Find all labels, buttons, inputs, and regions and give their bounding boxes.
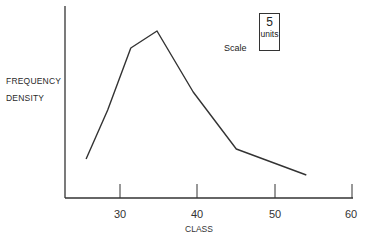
frequency-polygon-line	[86, 31, 306, 175]
x-tick-label-30: 30	[114, 208, 126, 220]
x-tick-label-60: 60	[345, 208, 357, 220]
y-axis-label-line2: DENSITY	[6, 90, 61, 107]
scale-unit: units	[260, 29, 279, 40]
y-axis-label: FREQUENCY DENSITY	[6, 73, 61, 107]
chart-canvas	[0, 0, 366, 240]
scale-value: 5	[260, 16, 279, 29]
x-tick-label-50: 50	[269, 208, 281, 220]
scale-label: Scale	[224, 43, 247, 53]
scale-box: 5 units	[259, 13, 280, 51]
x-tick-label-40: 40	[191, 208, 203, 220]
x-axis-label: CLASS	[185, 224, 213, 234]
y-axis-label-line1: FREQUENCY	[6, 73, 61, 90]
